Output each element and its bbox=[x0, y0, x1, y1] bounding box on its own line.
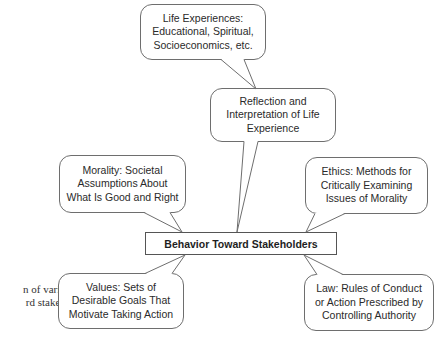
clipped-text-line-2: rd stake- bbox=[0, 296, 64, 309]
law-line-3: Controlling Authority bbox=[315, 309, 423, 323]
values-line-1: Values: Sets of bbox=[69, 281, 173, 295]
values-callout: Values: Sets of Desirable Goals That Mot… bbox=[58, 273, 184, 329]
reflection-callout: Reflection and Interpretation of Life Ex… bbox=[210, 88, 336, 142]
reflection-line-3: Experience bbox=[226, 122, 319, 136]
ethics-line-2: Critically Examining bbox=[321, 179, 413, 193]
tail-values-to-center bbox=[145, 255, 185, 274]
law-line-2: or Action Prescribed by bbox=[315, 296, 423, 310]
law-line-1: Law: Rules of Conduct bbox=[315, 282, 423, 296]
values-line-3: Motivate Taking Action bbox=[69, 308, 173, 322]
center-label: Behavior Toward Stakeholders bbox=[164, 238, 317, 250]
ethics-line-1: Ethics: Methods for bbox=[321, 165, 413, 179]
law-callout: Law: Rules of Conduct or Action Prescrib… bbox=[304, 274, 434, 331]
life-experiences-line-3: Socioeconomics, etc. bbox=[152, 39, 254, 53]
clipped-text-line-1: n of vari- bbox=[0, 283, 64, 296]
life-experiences-line-2: Educational, Spiritual, bbox=[152, 25, 254, 39]
life-experiences-line-1: Life Experiences: bbox=[152, 12, 254, 26]
morality-line-2: Assumptions About bbox=[66, 177, 178, 191]
morality-callout: Morality: Societal Assumptions About Wha… bbox=[59, 155, 186, 213]
values-line-2: Desirable Goals That bbox=[69, 294, 173, 308]
ethics-callout: Ethics: Methods for Critically Examining… bbox=[305, 157, 428, 214]
clipped-body-text: n of vari- rd stake- bbox=[0, 283, 64, 309]
tail-life-to-reflection bbox=[221, 59, 256, 89]
tail-morality-to-center bbox=[144, 212, 182, 232]
center-box-behavior: Behavior Toward Stakeholders bbox=[145, 232, 337, 255]
morality-line-1: Morality: Societal bbox=[66, 164, 178, 178]
reflection-line-1: Reflection and bbox=[226, 95, 319, 109]
life-experiences-callout: Life Experiences: Educational, Spiritual… bbox=[140, 4, 266, 60]
ethics-line-3: Issues of Morality bbox=[321, 192, 413, 206]
tail-ethics-to-center bbox=[306, 213, 345, 232]
tail-reflection-to-center bbox=[237, 141, 258, 232]
morality-line-3: What Is Good and Right bbox=[66, 191, 178, 205]
reflection-line-2: Interpretation of Life bbox=[226, 108, 319, 122]
tail-law-to-center bbox=[304, 255, 343, 275]
